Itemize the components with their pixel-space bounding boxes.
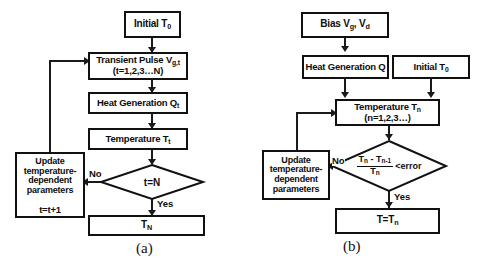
node-a-pulse-sub: g,t xyxy=(172,59,180,66)
node-b-decision-label-wrap: Tn - Tn-1 Tn <error xyxy=(348,150,430,182)
node-a-temperature-sub: t xyxy=(168,137,170,144)
node-a-initial-temperature: Initial T0 xyxy=(124,11,181,38)
node-a-output: TN xyxy=(88,215,205,236)
node-a-temperature: Temperature Tt xyxy=(88,128,188,150)
node-a-output-sub: N xyxy=(147,222,152,231)
arrowhead-b-heat-to-temperature xyxy=(341,92,349,98)
node-b-decision-den-sub: n xyxy=(376,169,380,176)
edge-a-feedback-vertical xyxy=(49,60,51,153)
node-b-decision-num-minus: - T xyxy=(368,154,382,164)
node-b-heat-label: Heat Generation Q xyxy=(305,62,385,72)
node-b-update-parameters: Update temperature- dependent parameters xyxy=(262,150,330,200)
node-b-bias-label: Bias V xyxy=(320,18,349,29)
node-a-heat-label: Heat Generation Q xyxy=(97,97,177,108)
node-b-decision-num-b-sub: n-1 xyxy=(381,158,391,165)
edge-label-b-yes: Yes xyxy=(394,191,410,202)
node-b-initial-temperature: Initial T0 xyxy=(392,55,470,79)
node-b-update-line4: parameters xyxy=(273,185,320,195)
arrowhead-b-bias-to-heat xyxy=(341,46,349,52)
node-b-initial-sub: 0 xyxy=(445,65,449,72)
node-b-bias-mid: , V xyxy=(354,18,366,29)
node-b-heat-generation: Heat Generation Q xyxy=(302,55,389,79)
node-a-temperature-label: Temperature T xyxy=(106,133,169,144)
node-b-bias: Bias Vg, Vd xyxy=(301,12,389,38)
node-a-decision-label-wrap: t=N xyxy=(120,172,184,192)
node-a-update-line4: parameters xyxy=(27,186,74,196)
node-a-heat-generation: Heat Generation Qt xyxy=(88,92,188,114)
edge-label-b-no: No xyxy=(332,155,345,166)
edge-label-a-yes: Yes xyxy=(157,198,173,209)
arrowhead-b-initial-to-temperature xyxy=(427,92,435,98)
figure-canvas: Initial T0 Transient Pulse Vg,t (t=1,2,3… xyxy=(0,0,483,270)
node-b-initial-label: Initial T xyxy=(413,61,444,72)
edge-b-feedback-vertical xyxy=(296,112,298,151)
node-b-temperature-sub: n xyxy=(417,105,421,112)
node-a-pulse-label: Transient Pulse V xyxy=(96,54,172,65)
edge-label-a-no: No xyxy=(89,168,102,179)
node-b-bias-sub2: d xyxy=(366,22,370,31)
node-b-temperature: Temperature Tn (n=1,2,3…) xyxy=(335,99,440,126)
node-b-output-label: T=T xyxy=(377,214,394,225)
node-a-update-counter: t=t+1 xyxy=(39,205,61,215)
node-b-output: T=Tn xyxy=(335,208,440,234)
caption-panel-b: (b) xyxy=(343,238,361,255)
node-a-transient-pulse: Transient Pulse Vg,t (t=1,2,3…N) xyxy=(88,52,188,80)
node-b-output-sub: n xyxy=(394,218,398,227)
caption-panel-a: (a) xyxy=(136,240,153,257)
node-a-heat-sub: t xyxy=(177,101,179,108)
node-b-decision-fraction: Tn - Tn-1 Tn xyxy=(357,155,394,176)
node-a-decision-label: t=N xyxy=(144,177,160,188)
node-a-pulse-range: (t=1,2,3…N) xyxy=(113,66,163,76)
node-a-update-parameters: Update temperature- dependent parameters… xyxy=(15,152,85,218)
node-b-temperature-label: Temperature T xyxy=(354,101,417,112)
node-a-initial-label: Initial T xyxy=(134,18,167,29)
node-a-initial-sub: 0 xyxy=(167,21,171,30)
node-b-decision-comparison: <error xyxy=(393,161,421,171)
node-b-temperature-range: (n=1,2,3…) xyxy=(364,113,410,123)
